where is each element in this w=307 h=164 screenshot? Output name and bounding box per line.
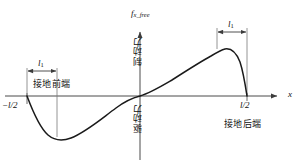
- y-axis-label: fx_free: [131, 8, 150, 18]
- left-dimension-subscript: 1: [41, 61, 44, 68]
- driving-force-label: 驱动力: [130, 104, 143, 133]
- braking-force-label: 制动力: [130, 37, 143, 66]
- left-dimension-label: l1: [38, 58, 44, 68]
- right-dimension-subscript: 1: [231, 22, 234, 29]
- right-end-value-label: l/2: [240, 100, 250, 110]
- leading-edge-label: 接地前端: [33, 77, 70, 90]
- trailing-edge-label: 接地后端: [224, 117, 261, 130]
- y-axis-label-subscript: x_free: [134, 11, 150, 18]
- x-axis-label: x: [288, 89, 292, 99]
- left-end-value-label: −l/2: [2, 100, 18, 110]
- right-dimension-label: l1: [228, 19, 234, 29]
